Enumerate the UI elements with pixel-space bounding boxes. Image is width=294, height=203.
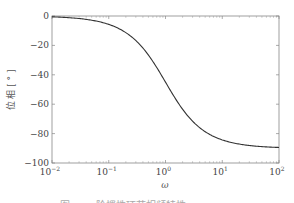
x-tick-label: 100 — [156, 165, 171, 177]
plot-frame — [52, 16, 279, 163]
x-tick-label: 10−1 — [97, 165, 117, 177]
x-tick-label: 101 — [213, 165, 228, 177]
y-axis-label: 位 相 [ ° ] — [5, 70, 16, 111]
y-tick-label: −60 — [30, 99, 49, 109]
x-axis-label: ω — [161, 180, 169, 190]
x-minor-ticks — [69, 16, 276, 163]
phase-plot: 0−20−40−60−80−100 10−210−1100101102 ω 位 … — [0, 0, 294, 203]
y-tick-label: 0 — [43, 11, 49, 21]
y-tick-label: −20 — [30, 40, 49, 50]
x-axis-ticks: 10−210−1100101102 — [40, 16, 285, 177]
x-tick-label: 102 — [269, 165, 284, 177]
y-tick-label: −40 — [30, 70, 49, 80]
x-tick-label: 10−2 — [40, 165, 60, 177]
figure-caption: 图 — 一阶惯性环节相频特性 — [60, 197, 240, 203]
y-tick-label: −80 — [30, 129, 49, 139]
phase-curve — [52, 17, 279, 148]
